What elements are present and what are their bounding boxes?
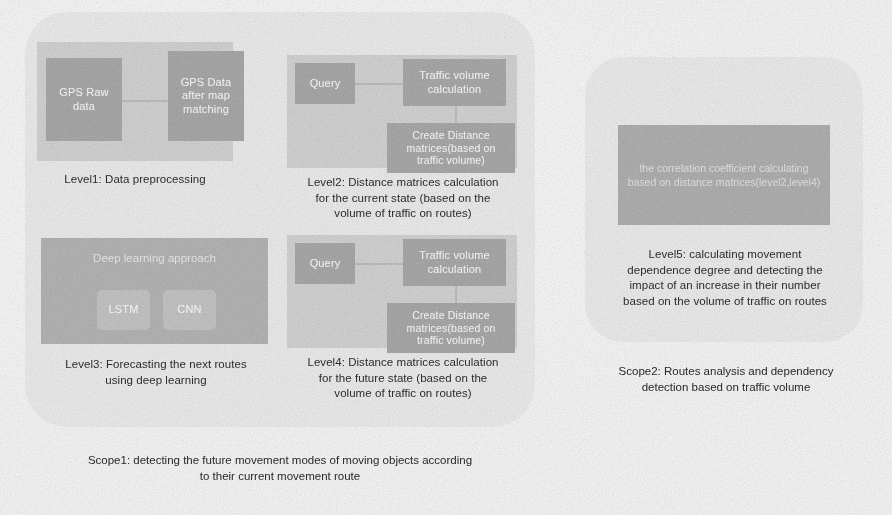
level5-caption: Level5: calculating movement dependence … xyxy=(600,247,850,309)
node-line-3: traffic volume) xyxy=(417,334,485,347)
level3-caption-line-1: Level3: Forecasting the next routes xyxy=(37,357,275,373)
node-traffic-volume-calculation[interactable]: Traffic volume calculation xyxy=(403,239,506,286)
node-line-1: Query xyxy=(310,257,341,270)
scope1-caption: Scope1: detecting the future movement mo… xyxy=(30,452,530,485)
node-line-1: CNN xyxy=(177,303,201,316)
scope2-caption: Scope2: Routes analysis and dependency d… xyxy=(595,363,857,396)
node-line-2: data xyxy=(73,100,95,113)
node-line-1: Create Distance xyxy=(412,309,490,322)
level4-caption-line-1: Level4: Distance matrices calculation xyxy=(283,355,523,371)
node-line-1: Create Distance xyxy=(412,129,490,142)
level4-container: Query Traffic volume calculation Create … xyxy=(287,235,517,348)
node-line-2: based on distance matrices(level2,level4… xyxy=(628,175,821,189)
level5-caption-line-3: impact of an increase in their number xyxy=(600,278,850,294)
level5-caption-line-1: Level5: calculating movement xyxy=(600,247,850,263)
level5-caption-line-2: dependence degree and detecting the xyxy=(600,263,850,279)
node-line-1: Traffic volume xyxy=(419,249,490,262)
node-line-1: GPS Data xyxy=(181,76,232,89)
level2-caption-line-1: Level2: Distance matrices calculation xyxy=(283,175,523,191)
node-create-distance-matrices[interactable]: Create Distance matrices(based on traffi… xyxy=(387,123,515,173)
level3-container-label: Deep learning approach xyxy=(41,252,268,264)
scope1-caption-line-1: Scope1: detecting the future movement mo… xyxy=(30,452,530,468)
scope2-caption-line-2: detection based on traffic volume xyxy=(595,379,857,395)
node-line-1: Query xyxy=(310,77,341,90)
level2-connector-query-traffic xyxy=(355,83,403,85)
node-line-3: matching xyxy=(183,103,229,116)
level3-container: Deep learning approach LSTM CNN xyxy=(41,238,268,344)
node-line-1: the correlation coefficient calculating xyxy=(628,161,821,175)
level1-connector xyxy=(117,100,175,102)
level4-caption: Level4: Distance matrices calculation fo… xyxy=(283,355,523,402)
node-line-2: calculation xyxy=(428,83,482,96)
level2-container: Query Traffic volume calculation Create … xyxy=(287,55,517,168)
node-line-2: after map xyxy=(182,89,230,102)
node-line-2: calculation xyxy=(428,263,482,276)
level1-caption-line-1: Level1: Data preprocessing xyxy=(37,172,233,188)
level3-caption: Level3: Forecasting the next routes usin… xyxy=(37,357,275,388)
level1-container: GPS Raw data GPS Data after map matching xyxy=(37,42,233,161)
node-lstm[interactable]: LSTM xyxy=(97,290,150,330)
figure-canvas: GPS Raw data GPS Data after map matching… xyxy=(0,0,892,515)
node-create-distance-matrices[interactable]: Create Distance matrices(based on traffi… xyxy=(387,303,515,353)
node-line-1: Traffic volume xyxy=(419,69,490,82)
node-query[interactable]: Query xyxy=(295,63,355,104)
node-query[interactable]: Query xyxy=(295,243,355,284)
level2-caption-line-2: for the current state (based on the xyxy=(283,191,523,207)
level1-caption: Level1: Data preprocessing xyxy=(37,172,233,188)
level3-caption-line-2: using deep learning xyxy=(37,373,275,389)
node-line-2: matrices(based on xyxy=(407,142,496,155)
level2-caption-line-3: volume of traffic on routes) xyxy=(283,206,523,222)
scope1-caption-line-2: to their current movement route xyxy=(30,468,530,484)
node-cnn[interactable]: CNN xyxy=(163,290,216,330)
level2-caption: Level2: Distance matrices calculation fo… xyxy=(283,175,523,222)
node-line-2: matrices(based on xyxy=(407,322,496,335)
node-line-3: traffic volume) xyxy=(417,154,485,167)
node-line-1: GPS Raw xyxy=(59,86,108,99)
node-gps-data-after-map-matching[interactable]: GPS Data after map matching xyxy=(168,51,244,141)
node-line-1: LSTM xyxy=(109,303,139,316)
level4-caption-line-2: for the future state (based on the xyxy=(283,371,523,387)
level5-caption-line-4: based on the volume of traffic on routes xyxy=(600,294,850,310)
level4-connector-query-traffic xyxy=(355,263,403,265)
scope2-caption-line-1: Scope2: Routes analysis and dependency xyxy=(595,363,857,379)
node-traffic-volume-calculation[interactable]: Traffic volume calculation xyxy=(403,59,506,106)
level4-caption-line-3: volume of traffic on routes) xyxy=(283,386,523,402)
node-correlation-coefficient-calculating[interactable]: the correlation coefficient calculating … xyxy=(618,125,830,225)
node-gps-raw-data[interactable]: GPS Raw data xyxy=(46,58,122,141)
